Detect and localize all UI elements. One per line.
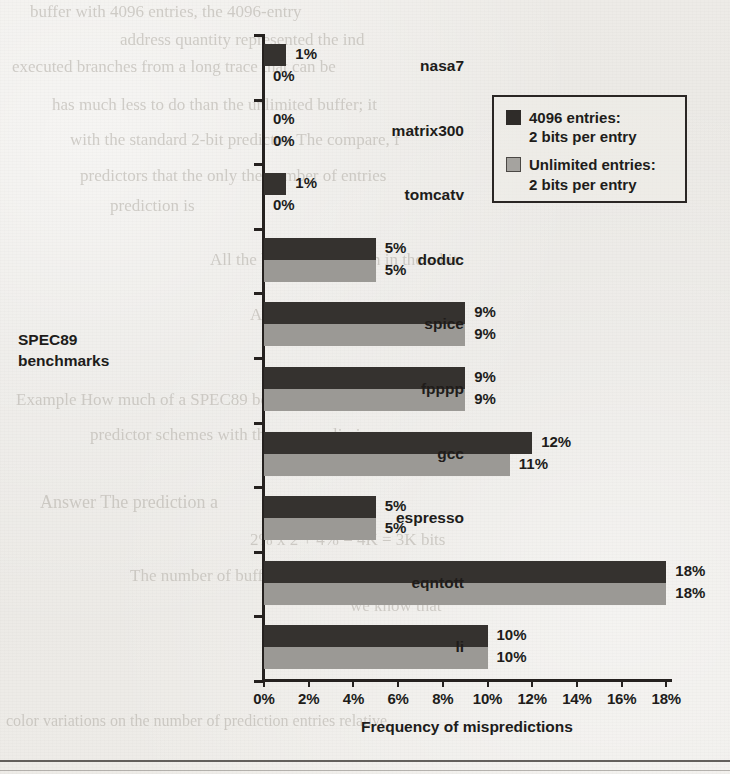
bar[interactable] (264, 496, 376, 518)
bar-row: 12% (264, 432, 684, 454)
bar[interactable] (264, 260, 376, 282)
x-axis-tick (263, 679, 265, 687)
category-label: matrix300 (392, 122, 464, 140)
x-axis-tick (576, 679, 578, 687)
x-axis-tick (621, 679, 623, 687)
bar-row: 10% (264, 625, 684, 647)
y-axis-tick (254, 357, 263, 360)
y-axis-tick (254, 615, 263, 618)
bar-chart-figure: 0%2%4%6%8%10%12%14%16%18% SPEC89 benchma… (0, 0, 730, 774)
bar-row: 10% (264, 647, 684, 669)
bar[interactable] (264, 561, 666, 583)
y-axis-tick (254, 292, 263, 295)
bar-value-label: 9% (474, 325, 496, 342)
bar[interactable] (264, 625, 488, 647)
page-footer-rule (0, 760, 730, 762)
bar-row: 9% (264, 389, 684, 411)
legend-line-1: Unlimited entries: (529, 156, 656, 173)
category-label: espresso (396, 509, 464, 527)
category-label: fpppp (421, 380, 464, 398)
bar-value-label: 5% (385, 239, 407, 256)
bar-value-label: 9% (474, 390, 496, 407)
y-axis-title: SPEC89 benchmarks (18, 330, 138, 372)
bar-value-label: 0% (273, 132, 295, 149)
bar[interactable] (264, 238, 376, 260)
category-label: li (455, 638, 464, 656)
bar-value-label: 11% (519, 455, 548, 472)
bar[interactable] (264, 518, 376, 540)
legend-item-label: Unlimited entries: 2 bits per entry (529, 155, 656, 193)
category-label: spice (424, 315, 464, 333)
y-axis-tick (254, 486, 263, 489)
bar[interactable] (264, 44, 286, 66)
bar-row: 5% (264, 238, 684, 260)
x-axis-tick-label: 2% (298, 690, 319, 707)
x-axis-title: Frequency of mispredictions (262, 718, 672, 736)
bar[interactable] (264, 173, 286, 195)
bar-row: 5% (264, 518, 684, 540)
bar[interactable] (264, 432, 532, 454)
legend-line-1: 4096 entries: (529, 109, 621, 126)
y-axis-tick (254, 680, 263, 683)
bar-group: 18%18% (264, 561, 684, 605)
bar-row: 9% (264, 302, 684, 324)
category-label: doduc (418, 251, 465, 269)
bar-row: 9% (264, 324, 684, 346)
legend-item: 4096 entries: 2 bits per entry (506, 108, 675, 146)
category-label: tomcatv (405, 186, 464, 204)
bar-value-label: 1% (295, 45, 317, 62)
bar-group: 5%5% (264, 238, 684, 282)
bar-value-label: 12% (541, 433, 571, 450)
bar-value-label: 10% (497, 626, 527, 643)
y-axis-tick (254, 422, 263, 425)
x-axis-tick (397, 679, 399, 687)
legend-line-2: 2 bits per entry (529, 128, 637, 145)
bar-value-label: 9% (474, 303, 496, 320)
bar-row: 0% (264, 66, 684, 88)
category-label: eqntott (411, 574, 464, 592)
bar-row: 5% (264, 260, 684, 282)
dark-swatch-icon (506, 110, 521, 125)
category-label: gcc (437, 445, 464, 463)
x-axis-tick (442, 679, 444, 687)
x-axis-tick-label: 0% (253, 690, 274, 707)
bar[interactable] (264, 454, 510, 476)
bar-value-label: 0% (273, 67, 295, 84)
bar-row: 18% (264, 561, 684, 583)
bar[interactable] (264, 583, 666, 605)
y-axis-tick (254, 228, 263, 231)
x-axis-tick-label: 18% (652, 690, 681, 707)
x-axis-line (262, 679, 672, 682)
bar-value-label: 10% (497, 648, 527, 665)
legend-item: Unlimited entries: 2 bits per entry (506, 155, 675, 193)
x-axis-tick-label: 6% (387, 690, 408, 707)
bar-group: 9%9% (264, 367, 684, 411)
bar-group: 10%10% (264, 625, 684, 669)
bar-row: 1% (264, 44, 684, 66)
chart-legend: 4096 entries: 2 bits per entry Unlimited… (492, 95, 687, 203)
bar-value-label: 0% (273, 110, 295, 127)
bar-value-label: 1% (295, 174, 317, 191)
x-axis-tick-label: 14% (562, 690, 591, 707)
bar-group: 12%11% (264, 432, 684, 476)
page-footer-rule-secondary (0, 770, 730, 771)
bar-value-label: 0% (273, 196, 295, 213)
bar-row: 11% (264, 454, 684, 476)
bar[interactable] (264, 647, 488, 669)
x-axis-tick-label: 10% (473, 690, 502, 707)
legend-line-2: 2 bits per entry (529, 176, 637, 193)
x-axis-tick-label: 12% (517, 690, 546, 707)
x-axis-tick-label: 8% (432, 690, 453, 707)
bar-row: 18% (264, 583, 684, 605)
x-axis-tick (665, 679, 667, 687)
y-axis-tick (254, 99, 263, 102)
x-axis-tick (308, 679, 310, 687)
x-axis-tick-label: 4% (343, 690, 364, 707)
x-axis-tick (487, 679, 489, 687)
bar-row: 5% (264, 496, 684, 518)
bar-value-label: 18% (675, 584, 705, 601)
x-axis-tick (531, 679, 533, 687)
x-axis-tick-label: 16% (607, 690, 636, 707)
category-label: nasa7 (420, 57, 464, 75)
bar-value-label: 9% (474, 368, 496, 385)
